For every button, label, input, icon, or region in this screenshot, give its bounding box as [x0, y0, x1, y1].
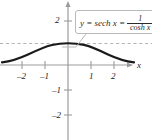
x-tick-label-1: 1 — [89, 72, 94, 81]
formula-text: y = sech x = 1 cosh x — [80, 15, 152, 32]
y-tick-label--1: –1 — [52, 86, 61, 95]
formula-lhs: y = sech x = — [80, 19, 125, 28]
x-axis-label: x — [137, 61, 141, 70]
y-axis-arrowhead — [65, 1, 70, 7]
y-tick-label-2: 2 — [55, 16, 60, 25]
fraction-numerator: 1 — [136, 15, 144, 23]
formula-fraction: 1 cosh x — [127, 15, 152, 32]
x-tick-label--1: –1 — [40, 72, 49, 81]
y-tick-label--2: –2 — [52, 111, 61, 120]
formula-callout-box: y = sech x = 1 cosh x — [75, 10, 152, 34]
fraction-denominator: cosh x — [128, 24, 152, 32]
x-tick-label-2: 2 — [111, 72, 116, 81]
sech-function-figure: y = sech x = 1 cosh x –2 –1 1 2 2 –1 –2 … — [0, 0, 152, 140]
x-tick-label--2: –2 — [17, 72, 26, 81]
